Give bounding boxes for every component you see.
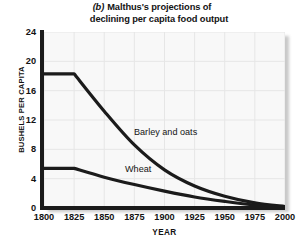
plot-region <box>44 32 285 208</box>
x-axis-title: YEAR <box>44 228 285 237</box>
y-axis-title: BUSHELS PER CAPITA <box>17 45 26 175</box>
figure-panel-b: (b)Malthus's projections of declining pe… <box>0 0 304 244</box>
series-label-barley-and-oats: Barley and oats <box>134 127 197 138</box>
figure-title-text-1: Malthus's projections of <box>107 2 211 12</box>
panel-letter: (b) <box>93 2 108 12</box>
curve-barley-and-oats <box>44 74 285 207</box>
plot-area <box>44 32 285 208</box>
series-curves <box>44 32 285 208</box>
y-tick-label-4: 4 <box>0 174 36 184</box>
x-axis-tick-labels: 180018251850187519001925195019752000 <box>44 212 285 225</box>
figure-title-line-2: declining per capita food output <box>0 13 304 25</box>
x-axis-line <box>40 206 285 210</box>
x-tick-label-2000: 2000 <box>265 212 304 223</box>
y-tick-label-24: 24 <box>0 27 36 37</box>
figure-title: (b)Malthus's projections of declining pe… <box>0 1 304 25</box>
figure-title-line-1: (b)Malthus's projections of <box>0 1 304 13</box>
series-label-wheat: Wheat <box>125 164 151 175</box>
y-axis-line <box>40 30 44 210</box>
